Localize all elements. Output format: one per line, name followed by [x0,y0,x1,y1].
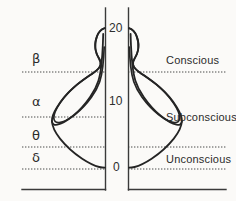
zone-label-conscious: Conscious [166,55,219,66]
left-brainwave-density [52,28,105,125]
band-label-delta: δ [32,151,40,164]
axis-tick-0: 0 [113,161,120,173]
zone-label-unconscious: Unconscious [166,154,231,165]
brainwave-consciousness-diagram: β α θ δ 20 10 0 Conscious Subconscious U… [0,0,236,201]
zone-label-subconscious: Subconscious [166,112,236,123]
left-lower-limb [52,121,105,168]
axis-tick-20: 20 [109,22,122,34]
band-label-alpha: α [32,95,41,108]
band-label-beta: β [32,52,40,65]
band-label-theta: θ [32,129,40,142]
axis-tick-10: 10 [109,95,122,107]
